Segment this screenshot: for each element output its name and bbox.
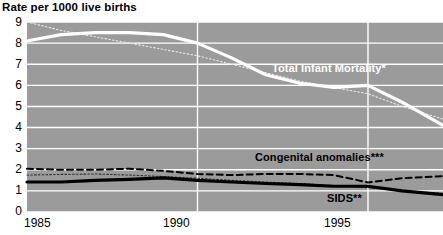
series-label-congenital-anomalies: Congenital anomalies*** (255, 151, 384, 163)
series-label-total-infant-mortality: Total Infant Mortality* (272, 62, 386, 74)
y-axis-label-9: 9 (0, 15, 22, 29)
y-axis-label-7: 7 (0, 57, 22, 71)
x-axis-label-1995: 1995 (324, 216, 351, 230)
y-axis-label-3: 3 (0, 141, 22, 155)
y-axis-label-1: 1 (0, 183, 22, 197)
y-axis-label-8: 8 (0, 36, 22, 50)
y-axis-label-6: 6 (0, 78, 22, 92)
chart-container: Rate per 1000 live births 9 8 7 6 5 4 3 … (0, 0, 443, 235)
y-axis-label-0: 0 (0, 204, 22, 218)
x-axis-label-1990: 1990 (163, 216, 190, 230)
y-axis-label-4: 4 (0, 120, 22, 134)
y-axis-label-2: 2 (0, 162, 22, 176)
y-axis-label-5: 5 (0, 99, 22, 113)
x-axis-label-1985: 1985 (24, 216, 51, 230)
series-label-sids: SIDS** (327, 192, 362, 204)
plot-canvas (0, 0, 443, 235)
